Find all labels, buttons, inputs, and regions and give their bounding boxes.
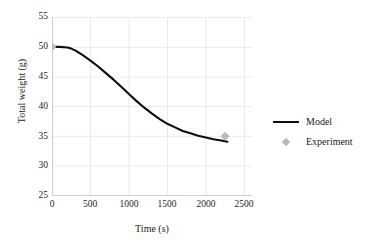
x-tick: 2500 — [222, 200, 266, 210]
x-tick: 500 — [68, 200, 112, 210]
experiment-point — [221, 132, 230, 141]
y-tick: 55 — [26, 12, 48, 22]
horizontal-gridlines — [52, 18, 252, 196]
legend-line-swatch — [272, 115, 300, 129]
x-tick: 1500 — [145, 200, 189, 210]
y-tick: 45 — [26, 72, 48, 82]
legend-label: Model — [300, 117, 332, 127]
y-axis-title: Total weight (g) — [17, 31, 27, 151]
y-tick-labels: 55 50 45 40 35 30 25 — [24, 0, 48, 252]
y-tick: 40 — [26, 102, 48, 112]
legend-diamond-swatch — [272, 135, 300, 149]
x-axis-title: Time (s) — [52, 224, 252, 234]
series-line-model — [52, 47, 227, 142]
legend: Model Experiment — [272, 112, 366, 152]
y-tick: 30 — [26, 161, 48, 171]
y-tick: 35 — [26, 132, 48, 142]
experiment-point — [52, 42, 57, 51]
legend-item-model[interactable]: Model — [272, 112, 366, 132]
y-tick: 50 — [26, 42, 48, 52]
legend-label: Experiment — [300, 137, 353, 147]
x-tick-labels: 0 500 1000 1500 2000 2500 — [0, 200, 366, 214]
series-points-experiment — [52, 42, 230, 141]
legend-item-experiment[interactable]: Experiment — [272, 132, 366, 152]
plot-canvas — [52, 17, 252, 196]
plot-area — [52, 17, 252, 196]
figure: 55 50 45 40 35 30 25 0 500 1000 1500 200… — [0, 0, 366, 252]
